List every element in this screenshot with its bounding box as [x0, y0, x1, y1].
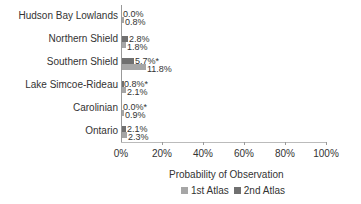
category-label: Carolinian [73, 102, 118, 113]
value-label: 2.1% [127, 88, 148, 96]
y-axis [121, 5, 122, 142]
x-tick-label: 80% [275, 148, 295, 159]
x-tick-label: 0% [114, 148, 128, 159]
legend-label-2nd-atlas: 2nd Atlas [244, 185, 285, 196]
x-tick [285, 142, 286, 145]
category-label: Northern Shield [49, 33, 118, 44]
category-label: Southern Shield [47, 56, 118, 67]
x-tick-label: 100% [313, 148, 339, 159]
x-tick [244, 142, 245, 145]
value-label: 2.3% [128, 133, 149, 141]
legend-label-1st-atlas: 1st Atlas [191, 185, 229, 196]
category-label: Lake Simcoe-Rideau [25, 79, 118, 90]
value-label: 0.8% [125, 18, 146, 26]
bar-chart: Hudson Bay Lowlands Northern Shield Sout… [0, 0, 361, 204]
x-tick [162, 142, 163, 145]
value-label: 0.9% [125, 111, 146, 119]
bar-1st-atlas [122, 42, 126, 48]
x-tick-label: 20% [152, 148, 172, 159]
value-label: 11.8% [147, 65, 172, 73]
x-tick [326, 142, 327, 145]
x-tick [203, 142, 204, 145]
x-axis [121, 142, 326, 143]
legend: 1st Atlas 2nd Atlas [181, 185, 285, 196]
x-tick-label: 40% [193, 148, 213, 159]
x-axis-title: Probability of Observation [169, 169, 284, 180]
category-label: Ontario [85, 125, 118, 136]
category-label: Hudson Bay Lowlands [18, 10, 118, 21]
legend-swatch-2nd-atlas [234, 187, 241, 194]
legend-swatch-1st-atlas [181, 187, 188, 194]
value-label: 1.8% [127, 43, 148, 51]
x-tick-label: 60% [234, 148, 254, 159]
